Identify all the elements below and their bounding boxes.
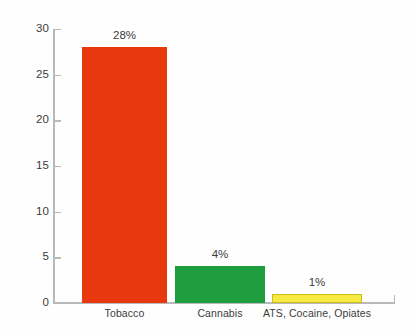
y-tick-label: 10 xyxy=(23,206,49,218)
y-tick-label: 5 xyxy=(23,251,49,263)
y-tick-label: 15 xyxy=(23,160,49,172)
y-tick-label: 25 xyxy=(23,69,49,81)
y-tick-label: 0 xyxy=(23,297,49,309)
y-tick-mark xyxy=(54,166,61,167)
y-tick-mark xyxy=(54,29,61,30)
x-axis-end-tick xyxy=(394,295,396,303)
bar-ats-cocaine-opiates[interactable] xyxy=(272,294,362,303)
chart-page: 051015202530 28%4%1% TobaccoCannabisATS,… xyxy=(0,0,414,333)
y-tick-mark xyxy=(54,75,61,76)
bar-tobacco[interactable] xyxy=(82,47,167,303)
y-tick-mark xyxy=(54,303,61,304)
bar-value-label: 1% xyxy=(272,277,362,289)
y-tick-label: 30 xyxy=(23,23,49,35)
bar-value-label: 4% xyxy=(175,249,265,261)
bar-cannabis[interactable] xyxy=(175,266,265,303)
y-tick-mark xyxy=(54,257,61,258)
y-tick-mark xyxy=(54,212,61,213)
category-label: ATS, Cocaine, Opiates xyxy=(242,308,392,319)
bar-chart: 051015202530 28%4%1% TobaccoCannabisATS,… xyxy=(0,0,414,333)
bar-value-label: 28% xyxy=(82,30,167,42)
y-tick-label: 20 xyxy=(23,114,49,126)
y-tick-mark xyxy=(54,120,61,121)
